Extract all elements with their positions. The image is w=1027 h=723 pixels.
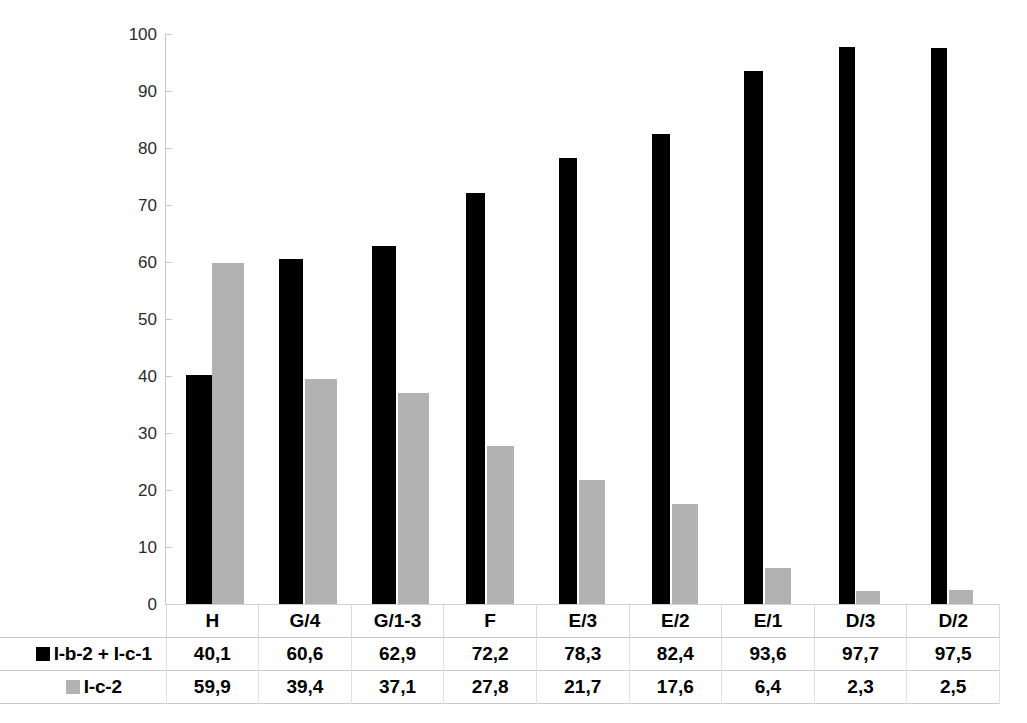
bar-H-series-1 bbox=[212, 263, 244, 604]
y-tick-label-50: 50 bbox=[95, 311, 157, 328]
bar-G/4-series-0 bbox=[279, 259, 303, 604]
value-cell-s0-D/2: 97,5 bbox=[907, 638, 1000, 671]
category-row-spacer bbox=[0, 605, 166, 638]
data-table-body: HG/4G/1-3FE/3E/2E/1D/3D/2 I-b-2 + I-c-1 … bbox=[0, 605, 1000, 704]
value-cell-s0-F: 72,2 bbox=[444, 638, 537, 671]
value-cell-s1-G/4: 39,4 bbox=[259, 671, 352, 704]
bar-E/1-series-0 bbox=[744, 71, 763, 605]
y-tick-label-30: 30 bbox=[95, 425, 157, 442]
bar-H-series-0 bbox=[186, 375, 212, 604]
category-label-E/2: E/2 bbox=[629, 605, 722, 638]
y-tick-label-10: 10 bbox=[95, 539, 157, 556]
bar-group-D/3 bbox=[815, 34, 908, 604]
category-label-E/1: E/1 bbox=[722, 605, 815, 638]
value-cell-s0-D/3: 97,7 bbox=[814, 638, 907, 671]
y-axis-tick-labels: 1009080706050403020100 bbox=[95, 0, 157, 612]
bar-E/3-series-0 bbox=[559, 158, 578, 604]
bar-G/4-series-1 bbox=[305, 379, 337, 604]
bar-D/2-series-0 bbox=[931, 48, 947, 604]
y-tick-mark-70 bbox=[166, 205, 172, 206]
value-cell-s1-D/3: 2,3 bbox=[814, 671, 907, 704]
value-cell-s0-G/1-3: 62,9 bbox=[351, 638, 444, 671]
bar-E/3-series-1 bbox=[579, 480, 605, 604]
value-cell-s0-E/2: 82,4 bbox=[629, 638, 722, 671]
bar-E/2-series-0 bbox=[652, 134, 671, 604]
y-tick-label-60: 60 bbox=[95, 254, 157, 271]
bar-group-F bbox=[444, 34, 537, 604]
bar-group-E/3 bbox=[537, 34, 630, 604]
bar-group-G/1-3 bbox=[351, 34, 444, 604]
bar-E/1-series-1 bbox=[765, 568, 791, 605]
category-label-H: H bbox=[166, 605, 259, 638]
value-cell-s1-H: 59,9 bbox=[166, 671, 259, 704]
legend-entry-series-1: I-c-2 bbox=[0, 671, 166, 704]
y-tick-label-20: 20 bbox=[95, 482, 157, 499]
series-row-1: I-c-2 59,939,437,127,821,717,66,42,32,5 bbox=[0, 671, 1000, 704]
legend-label-series-1: I-c-2 bbox=[84, 676, 122, 698]
y-tick-mark-90 bbox=[166, 91, 172, 92]
bar-D/3-series-1 bbox=[856, 591, 880, 604]
bar-G/1-3-series-0 bbox=[372, 246, 396, 605]
legend-label-series-0: I-b-2 + I-c-1 bbox=[54, 643, 152, 665]
value-cell-s1-F: 27,8 bbox=[444, 671, 537, 704]
black-square-marker-icon bbox=[36, 647, 50, 661]
category-label-D/2: D/2 bbox=[907, 605, 1000, 638]
bar-group-E/1 bbox=[722, 34, 815, 604]
category-label-D/3: D/3 bbox=[814, 605, 907, 638]
legend-entry-series-0: I-b-2 + I-c-1 bbox=[0, 638, 166, 671]
y-tick-label-80: 80 bbox=[95, 140, 157, 157]
y-tick-mark-60 bbox=[166, 262, 172, 263]
y-tick-mark-100 bbox=[166, 34, 172, 35]
value-cell-s0-H: 40,1 bbox=[166, 638, 259, 671]
y-tick-mark-50 bbox=[166, 319, 172, 320]
category-label-G/4: G/4 bbox=[259, 605, 352, 638]
category-label-F: F bbox=[444, 605, 537, 638]
y-tick-label-100: 100 bbox=[95, 26, 157, 43]
bar-E/2-series-1 bbox=[672, 504, 698, 604]
y-tick-label-90: 90 bbox=[95, 83, 157, 100]
bar-group-H bbox=[166, 34, 259, 604]
value-cell-s0-E/1: 93,6 bbox=[722, 638, 815, 671]
y-tick-label-40: 40 bbox=[95, 368, 157, 385]
value-cell-s1-E/2: 17,6 bbox=[629, 671, 722, 704]
value-cell-s1-E/1: 6,4 bbox=[722, 671, 815, 704]
category-label-G/1-3: G/1-3 bbox=[351, 605, 444, 638]
y-tick-mark-40 bbox=[166, 376, 172, 377]
y-tick-mark-80 bbox=[166, 148, 172, 149]
value-cell-s1-D/2: 2,5 bbox=[907, 671, 1000, 704]
bar-F-series-0 bbox=[466, 193, 485, 605]
data-table-wrapper: HG/4G/1-3FE/3E/2E/1D/3D/2 I-b-2 + I-c-1 … bbox=[0, 605, 1027, 715]
value-cell-s0-E/3: 78,3 bbox=[536, 638, 629, 671]
y-tick-label-70: 70 bbox=[95, 197, 157, 214]
y-tick-mark-10 bbox=[166, 547, 172, 548]
bar-D/3-series-0 bbox=[839, 47, 855, 604]
bar-F-series-1 bbox=[487, 446, 515, 605]
value-cell-s0-G/4: 60,6 bbox=[259, 638, 352, 671]
bar-groups-container bbox=[166, 34, 1000, 604]
bar-G/1-3-series-1 bbox=[398, 393, 430, 605]
category-header-row: HG/4G/1-3FE/3E/2E/1D/3D/2 bbox=[0, 605, 1000, 638]
category-label-E/3: E/3 bbox=[536, 605, 629, 638]
bar-group-E/2 bbox=[629, 34, 722, 604]
bar-chart-figure: 1009080706050403020100 HG/4G/1-3FE/3E/2E… bbox=[0, 0, 1027, 723]
y-tick-mark-30 bbox=[166, 433, 172, 434]
gray-square-marker-icon bbox=[66, 680, 80, 694]
plot-area: 1009080706050403020100 bbox=[0, 0, 1027, 612]
value-cell-s1-E/3: 21,7 bbox=[536, 671, 629, 704]
bar-group-D/2 bbox=[907, 34, 1000, 604]
value-cell-s1-G/1-3: 37,1 bbox=[351, 671, 444, 704]
bar-group-G/4 bbox=[259, 34, 352, 604]
data-table: HG/4G/1-3FE/3E/2E/1D/3D/2 I-b-2 + I-c-1 … bbox=[0, 605, 1000, 704]
y-tick-mark-20 bbox=[166, 490, 172, 491]
series-row-0: I-b-2 + I-c-1 40,160,662,972,278,382,493… bbox=[0, 638, 1000, 671]
bar-D/2-series-1 bbox=[949, 590, 973, 604]
